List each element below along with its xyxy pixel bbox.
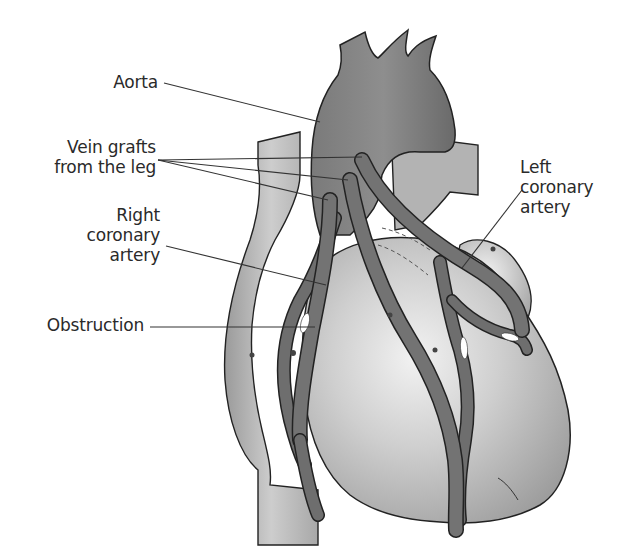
right-coronary-artery-label: Right coronary artery — [60, 205, 160, 265]
obstruction-label: Obstruction — [20, 315, 144, 335]
left-coronary-artery-label: Left coronary artery — [520, 157, 630, 217]
vein-graft-leader-3 — [158, 160, 328, 200]
aorta-leader — [164, 83, 320, 122]
aorta-label: Aorta — [70, 72, 158, 92]
heart-bypass-diagram: Aorta Vein grafts from the leg Right cor… — [0, 0, 636, 548]
vein-grafts-label: Vein grafts from the leg — [30, 137, 156, 177]
